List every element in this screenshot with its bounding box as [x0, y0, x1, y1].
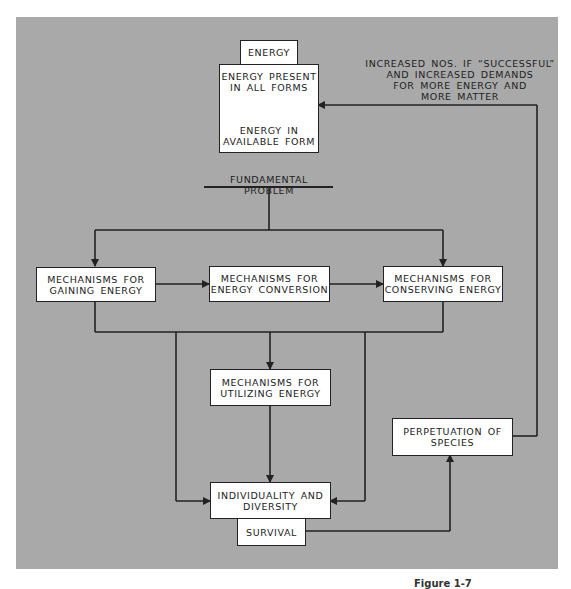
figure-caption: Figure 1-7	[414, 578, 472, 589]
energy-available-text: ENERGY IN AVAILABLE FORM	[223, 125, 315, 147]
node-utilizing-energy: MECHANISMS FOR UTILIZING ENERGY	[210, 369, 331, 406]
feedback-label: INCREASED NOS. IF “SUCCESSFUL” AND INCRE…	[362, 58, 558, 102]
node-individuality-diversity: INDIVIDUALITY AND DIVERSITY	[210, 482, 331, 519]
node-gaining-energy: MECHANISMS FOR GAINING ENERGY	[36, 267, 156, 302]
energy-tab: ENERGY	[240, 40, 298, 65]
node-conserving-energy: MECHANISMS FOR CONSERVING ENERGY	[383, 266, 503, 302]
node-survival: SURVIVAL	[237, 518, 306, 546]
energy-present-text: ENERGY PRESENT IN ALL FORMS	[221, 71, 316, 93]
energy-tab-label: ENERGY	[248, 47, 290, 58]
energy-box: ENERGY PRESENT IN ALL FORMS ENERGY IN AV…	[219, 64, 319, 153]
node-energy-conversion: MECHANISMS FOR ENERGY CONVERSION	[209, 266, 330, 302]
node-perpetuation-of-species: PERPETUATION OF SPECIES	[392, 418, 513, 456]
fundamental-problem-label: FUNDAMENTAL PROBLEM	[204, 174, 334, 196]
